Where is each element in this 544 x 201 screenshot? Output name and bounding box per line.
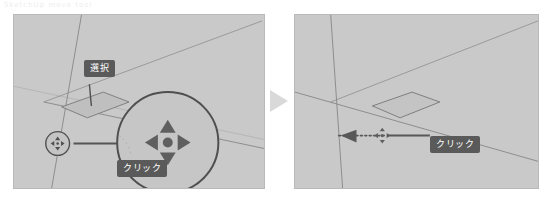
callout-click-badge-right: クリック bbox=[430, 136, 480, 153]
callout-click-badge-left: クリック bbox=[117, 160, 167, 177]
scene-after bbox=[295, 15, 538, 188]
step-after-panel bbox=[294, 14, 539, 189]
figure-stage: SketchUp move tool bbox=[0, 0, 544, 201]
callout-select-badge: 選択 bbox=[84, 60, 115, 77]
top-caption: SketchUp move tool bbox=[4, 1, 134, 9]
play-triangle-icon bbox=[268, 88, 290, 114]
